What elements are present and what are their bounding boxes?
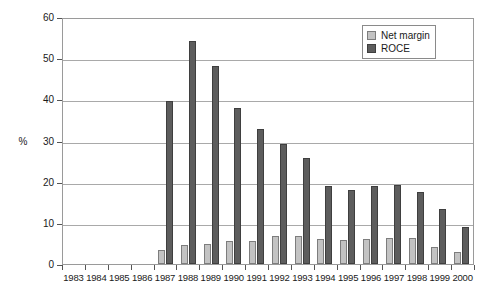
year-group (245, 19, 268, 264)
x-axis-tick (85, 265, 86, 270)
year-group (63, 19, 86, 264)
bar-roce-1995 (348, 190, 355, 264)
bar-roce-1994 (325, 186, 332, 264)
bar-roce-1999 (439, 209, 446, 264)
legend-item-net-margin: Net margin (367, 29, 430, 42)
year-group (450, 19, 473, 264)
bar-roce-1997 (394, 185, 401, 264)
x-axis-tick (405, 265, 406, 270)
bar-net-margin-1995 (340, 240, 347, 264)
x-axis-tick (451, 265, 452, 270)
x-axis-tick-label: 1986 (131, 272, 154, 283)
y-axis-tick-label: 50 (28, 54, 54, 64)
x-axis-tick-label: 1985 (108, 272, 131, 283)
y-axis-labels: 6050403020100 (28, 0, 54, 293)
year-group (314, 19, 337, 264)
x-axis-tick-label: 2000 (451, 272, 474, 283)
y-axis-tick (57, 18, 62, 19)
legend-item-roce: ROCE (367, 42, 430, 55)
bar-net-margin-1990 (226, 241, 233, 264)
bar-roce-1996 (371, 186, 378, 264)
x-axis-tick-label: 1995 (337, 272, 360, 283)
bar-net-margin-1994 (317, 239, 324, 264)
y-axis-tick-label: 40 (28, 95, 54, 105)
chart-legend: Net margin ROCE (362, 25, 436, 59)
y-axis-tick (57, 183, 62, 184)
bar-net-margin-1998 (409, 238, 416, 264)
bar-chart: % 6050403020100 198319841985198619871988… (0, 0, 487, 293)
bar-net-margin-1997 (386, 238, 393, 264)
x-axis-tick-label: 1988 (176, 272, 199, 283)
x-axis-tick-label: 1998 (405, 272, 428, 283)
bar-roce-1992 (280, 144, 287, 264)
year-group (131, 19, 154, 264)
y-axis-tick-label: 0 (28, 260, 54, 270)
y-axis-tick-label: 10 (28, 219, 54, 229)
bar-roce-1993 (303, 158, 310, 264)
bar-net-margin-1991 (249, 241, 256, 264)
x-axis-tick-label: 1993 (291, 272, 314, 283)
x-axis-tick (176, 265, 177, 270)
bar-net-margin-1988 (181, 245, 188, 264)
x-axis-tick (131, 265, 132, 270)
x-axis-tick (314, 265, 315, 270)
x-axis-tick-label: 1987 (154, 272, 177, 283)
x-axis-tick (268, 265, 269, 270)
x-axis-tick (108, 265, 109, 270)
x-axis-tick (62, 265, 63, 270)
x-axis-tick (199, 265, 200, 270)
x-axis-tick-label: 1992 (268, 272, 291, 283)
bar-roce-1988 (189, 41, 196, 264)
y-axis-tick-label: 20 (28, 178, 54, 188)
x-axis-tick (474, 265, 475, 270)
year-group (109, 19, 132, 264)
year-group (200, 19, 223, 264)
year-group (177, 19, 200, 264)
bar-roce-1991 (257, 129, 264, 264)
x-axis-tick-label: 1990 (222, 272, 245, 283)
bar-roce-2000 (462, 227, 469, 264)
year-group (86, 19, 109, 264)
x-axis-tick (428, 265, 429, 270)
bar-roce-1990 (234, 108, 241, 264)
x-axis-tick (360, 265, 361, 270)
bar-net-margin-2000 (454, 252, 461, 264)
bar-roce-1987 (166, 101, 173, 264)
x-axis-tick-label: 1983 (62, 272, 85, 283)
x-axis-labels: 1983198419851986198719881989199019911992… (62, 272, 474, 283)
legend-label-roce: ROCE (381, 43, 410, 54)
y-axis-tick (57, 224, 62, 225)
x-axis-tick-label: 1991 (245, 272, 268, 283)
bar-net-margin-1992 (272, 236, 279, 264)
bar-net-margin-1999 (431, 247, 438, 264)
x-axis-tick-label: 1989 (199, 272, 222, 283)
x-axis-tick (222, 265, 223, 270)
year-group (268, 19, 291, 264)
legend-swatch-roce (367, 44, 376, 53)
x-axis-tick (291, 265, 292, 270)
x-axis-tick-label: 1994 (314, 272, 337, 283)
y-axis-tick (57, 265, 62, 266)
x-axis-tick (154, 265, 155, 270)
y-axis-tick-label: 60 (28, 13, 54, 23)
bar-net-margin-1996 (363, 239, 370, 264)
year-group (336, 19, 359, 264)
y-axis-tick (57, 142, 62, 143)
y-axis-tick (57, 100, 62, 101)
legend-swatch-net-margin (367, 31, 376, 40)
legend-label-net-margin: Net margin (381, 30, 430, 41)
year-group (291, 19, 314, 264)
y-axis-tick (57, 59, 62, 60)
x-axis-tick-label: 1997 (382, 272, 405, 283)
x-axis-tick-label: 1996 (360, 272, 383, 283)
bar-net-margin-1987 (158, 250, 165, 264)
x-axis-tick-label: 1984 (85, 272, 108, 283)
y-axis-tick-label: 30 (28, 137, 54, 147)
year-group (154, 19, 177, 264)
bar-roce-1989 (212, 66, 219, 264)
bar-net-margin-1993 (295, 236, 302, 264)
bar-net-margin-1989 (204, 244, 211, 264)
x-axis-tick (245, 265, 246, 270)
year-group (222, 19, 245, 264)
x-axis-tick (382, 265, 383, 270)
